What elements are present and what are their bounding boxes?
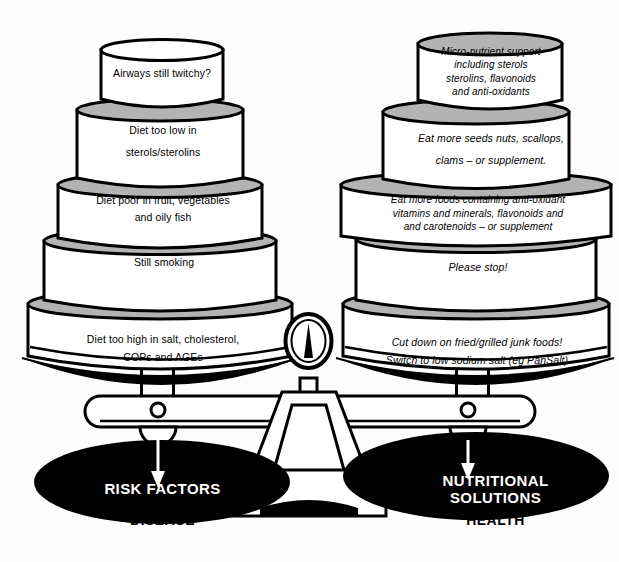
tier-airways [101,40,223,108]
tier-sterols [77,99,243,187]
right-pan-stem-b [487,370,490,398]
tier-seeds [383,100,569,189]
scale-illustration [0,0,619,562]
left-pan-stem-a [140,370,143,398]
fulcrum-gauge [286,314,332,395]
left-stack [22,40,300,399]
right-pivot-hole [461,403,475,417]
right-outcome [343,432,609,520]
left-pan-stem-b [172,370,175,398]
risk-factors-ellipse [34,440,290,524]
balance-scale-diagram: Airways still twitchy? Diet too low in s… [0,0,619,562]
left-outcome [34,440,290,524]
nutritional-solutions-ellipse [343,432,609,520]
left-pivot-hole [151,403,165,417]
tier-micronutrient [418,33,562,109]
right-pan-stem-a [455,370,458,398]
right-stack [336,33,614,398]
